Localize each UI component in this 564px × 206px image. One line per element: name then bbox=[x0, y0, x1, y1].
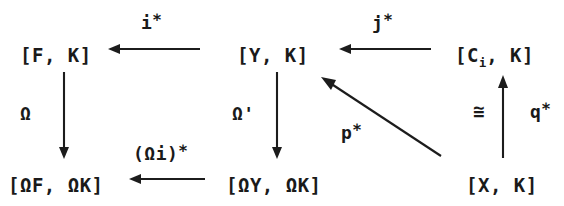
label-omega-i-star-text: (Ωi) bbox=[133, 143, 178, 164]
label-q-star-text: q bbox=[530, 101, 541, 122]
node-Ci-K: [Ci, K] bbox=[455, 46, 534, 69]
isomorphism-icon: ≅ bbox=[473, 102, 484, 121]
label-omega-text: Ω bbox=[20, 103, 31, 124]
arrow-omega-i-star bbox=[129, 174, 205, 184]
arrow-omega-prime bbox=[272, 72, 282, 159]
label-p-star: p∗ bbox=[341, 124, 362, 142]
node-F-K-label: [F, K] bbox=[20, 44, 92, 66]
label-i-star-asterisk: ∗ bbox=[152, 7, 162, 26]
arrow-j-star bbox=[339, 44, 431, 54]
isomorphism-symbol: ≅ bbox=[473, 100, 484, 122]
node-X-K-label: [X, K] bbox=[466, 174, 538, 196]
label-j-star: j∗ bbox=[372, 14, 393, 32]
node-X-K: [X, K] bbox=[466, 176, 538, 195]
label-j-star-text: j bbox=[372, 12, 383, 33]
node-OmegaF-OmegaK: [ΩF, ΩK] bbox=[8, 176, 104, 195]
label-omega-i-star-asterisk: ∗ bbox=[178, 138, 188, 157]
label-p-star-text: p bbox=[341, 122, 352, 143]
node-OmegaY-OmegaK-label: [ΩY, ΩK] bbox=[226, 174, 322, 196]
node-OmegaF-OmegaK-label: [ΩF, ΩK] bbox=[8, 174, 104, 196]
label-p-star-asterisk: ∗ bbox=[352, 117, 362, 136]
node-Y-K: [Y, K] bbox=[237, 46, 309, 65]
commutative-diagram: [F, K] [Y, K] [Ci, K] [ΩF, ΩK] [ΩY, ΩK] … bbox=[0, 0, 564, 206]
arrow-q-star bbox=[498, 75, 508, 158]
label-q-star-asterisk: ∗ bbox=[541, 96, 551, 115]
label-omega-i-star: (Ωi)∗ bbox=[133, 145, 189, 163]
label-j-star-asterisk: ∗ bbox=[383, 7, 393, 26]
label-omega-prime: Ω' bbox=[232, 105, 255, 123]
arrow-i-star bbox=[108, 44, 200, 54]
label-omega-prime-text: Ω' bbox=[232, 103, 255, 124]
arrow-p-star bbox=[321, 77, 441, 156]
label-q-star: q∗ bbox=[530, 103, 551, 121]
label-i-star-text: i bbox=[141, 12, 152, 33]
node-OmegaY-OmegaK: [ΩY, ΩK] bbox=[226, 176, 322, 195]
node-F-K: [F, K] bbox=[20, 46, 92, 65]
arrow-omega bbox=[59, 72, 69, 159]
node-Ci-K-label: [C bbox=[455, 44, 479, 66]
label-omega: Ω bbox=[20, 105, 31, 123]
node-Y-K-label: [Y, K] bbox=[237, 44, 309, 66]
node-Ci-K-label-suffix: , K] bbox=[486, 44, 534, 66]
label-i-star: i∗ bbox=[141, 14, 162, 32]
